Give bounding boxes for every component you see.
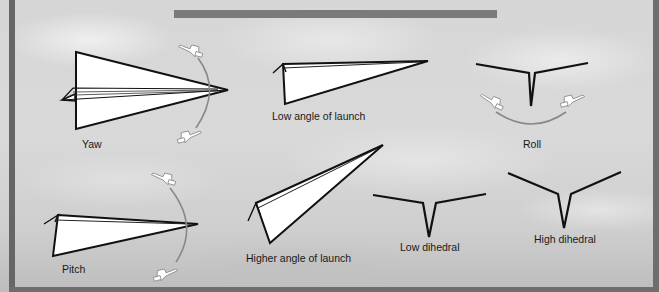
high-dihedral-front-icon: [508, 172, 621, 228]
label-low-angle-of-launch: Low angle of launch: [272, 110, 365, 122]
label-high-dihedral: High dihedral: [534, 233, 596, 245]
label-yaw: Yaw: [82, 138, 102, 150]
label-higher-angle-of-launch: Higher angle of launch: [246, 252, 351, 264]
label-roll: Roll: [523, 138, 541, 150]
low-angle-airplane-icon: [273, 61, 428, 104]
label-pitch: Pitch: [62, 263, 85, 275]
diagram-canvas: Yaw Low angle of launch Roll Pitch Highe…: [0, 0, 659, 292]
higher-angle-airplane-icon: [248, 145, 383, 243]
low-dihedral-front-icon: [373, 194, 486, 237]
label-low-dihedral: Low dihedral: [400, 241, 460, 253]
pitch-airplane-icon: [44, 215, 198, 256]
